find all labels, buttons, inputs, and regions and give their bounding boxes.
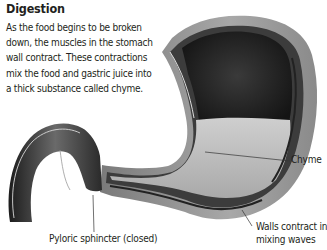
walls-label-line1: Walls contract in — [256, 221, 327, 234]
paragraph-line: As the food begins to be broken — [6, 20, 156, 35]
pyloric-sphincter-label: Pyloric sphincter (closed) — [49, 233, 157, 246]
description-paragraph: As the food begins to be broken down, th… — [6, 20, 156, 96]
walls-label-line2: mixing waves — [256, 234, 327, 247]
walls-label: Walls contract in mixing waves — [256, 221, 327, 246]
paragraph-line: down, the muscles in the stomach — [6, 35, 156, 50]
section-title: Digestion — [6, 1, 65, 16]
paragraph-line: mix the food and gastric juice into — [6, 66, 156, 81]
paragraph-line: a thick substance called chyme. — [6, 81, 156, 96]
paragraph-line: wall contract. These contractions — [6, 50, 156, 65]
duodenum — [9, 123, 102, 222]
chyme-label: Chyme — [291, 154, 322, 167]
stomach-interior-upper — [182, 32, 292, 130]
pyloric-leader-line — [93, 195, 94, 232]
